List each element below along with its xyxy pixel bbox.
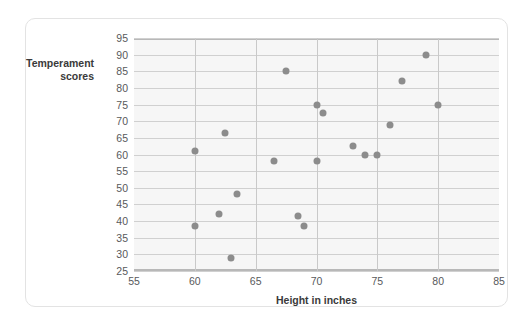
y-tick-label: 60	[102, 149, 128, 160]
y-tick-label: 95	[102, 33, 128, 44]
y-axis-title-line2: scores	[26, 70, 94, 83]
y-tick-label: 45	[102, 199, 128, 210]
gridline-vertical	[317, 38, 318, 271]
gridline-horizontal	[134, 271, 499, 272]
figure-card: Temperament scores 253035404550556065707…	[25, 18, 508, 307]
data-point	[191, 148, 198, 155]
y-tick-label: 25	[102, 266, 128, 277]
y-axis-title-line1: Temperament	[26, 57, 94, 70]
y-tick-label: 40	[102, 216, 128, 227]
x-axis-tick-labels: 55606570758085	[134, 276, 499, 290]
data-point	[350, 143, 357, 150]
x-tick-label: 70	[311, 276, 323, 287]
gridline-vertical	[438, 38, 439, 271]
data-point	[435, 101, 442, 108]
data-point	[313, 101, 320, 108]
data-point	[216, 211, 223, 218]
y-tick-label: 75	[102, 99, 128, 110]
data-point	[191, 223, 198, 230]
y-tick-label: 90	[102, 49, 128, 60]
data-point	[374, 151, 381, 158]
y-axis-title: Temperament scores	[26, 57, 94, 83]
data-point	[295, 213, 302, 220]
y-axis-tick-labels: 253035404550556065707580859095	[98, 38, 128, 271]
data-point	[283, 68, 290, 75]
x-tick-label: 60	[189, 276, 201, 287]
y-tick-label: 30	[102, 249, 128, 260]
y-tick-label: 70	[102, 116, 128, 127]
x-tick-label: 65	[250, 276, 262, 287]
data-point	[398, 78, 405, 85]
data-point	[313, 158, 320, 165]
data-point	[362, 151, 369, 158]
x-tick-label: 75	[371, 276, 383, 287]
data-point	[301, 223, 308, 230]
x-tick-label: 80	[432, 276, 444, 287]
y-tick-label: 85	[102, 66, 128, 77]
data-point	[423, 51, 430, 58]
data-point	[228, 254, 235, 261]
gridline-vertical	[256, 38, 257, 271]
y-tick-label: 65	[102, 133, 128, 144]
x-tick-label: 85	[493, 276, 505, 287]
x-tick-label: 55	[128, 276, 140, 287]
y-tick-label: 35	[102, 232, 128, 243]
y-tick-label: 55	[102, 166, 128, 177]
data-point	[234, 191, 241, 198]
plot-region	[134, 38, 499, 271]
y-tick-label: 50	[102, 183, 128, 194]
y-tick-label: 80	[102, 83, 128, 94]
x-axis-title: Height in inches	[134, 294, 499, 306]
data-point	[222, 129, 229, 136]
scatter-chart: Temperament scores 253035404550556065707…	[26, 19, 509, 308]
data-point	[386, 121, 393, 128]
data-point	[270, 158, 277, 165]
data-point	[319, 109, 326, 116]
